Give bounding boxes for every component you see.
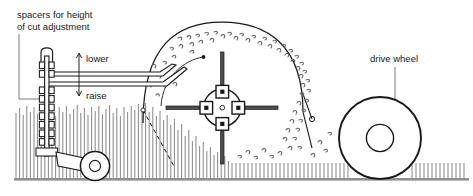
grass-clippings — [148, 31, 331, 159]
lower-label: lower — [86, 53, 109, 64]
raise-label: raise — [86, 90, 107, 101]
spacers-label-line1: spacers for height — [17, 9, 93, 20]
cut-grass — [232, 163, 464, 178]
drive-wheel-label: drive wheel — [370, 53, 418, 64]
drive-wheel — [339, 97, 421, 179]
mower-diagram: spacers for height of cut adjustment low… — [0, 0, 473, 196]
spacers — [36, 48, 58, 156]
handle-deck-bar — [48, 64, 187, 86]
spacers-label-line2: of cut adjustment — [17, 21, 90, 32]
front-caster-wheel — [56, 151, 110, 180]
spacers-leader-line — [19, 34, 39, 99]
housing-right-link — [303, 94, 315, 148]
ground-line — [14, 178, 469, 181]
